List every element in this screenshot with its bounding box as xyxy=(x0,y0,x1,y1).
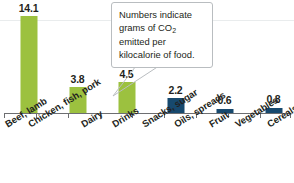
x-axis-tick xyxy=(68,113,69,118)
bar-beef-lamb[interactable] xyxy=(20,16,37,113)
callout-subscript-2: 2 xyxy=(172,27,176,34)
bar-value-beef-lamb: 14.1 xyxy=(19,2,39,14)
callout-line-3: emitted per xyxy=(119,36,166,47)
callout-line-2-prefix: grams of CO xyxy=(119,22,172,33)
bar-group-beef-lamb[interactable]: 14.1 xyxy=(4,0,53,114)
callout-text: Numbers indicate grams of CO2 emitted pe… xyxy=(119,8,206,61)
units-callout: Numbers indicate grams of CO2 emitted pe… xyxy=(111,2,213,68)
callout-line-4: kilocalorie of food. xyxy=(119,49,195,60)
co2-per-kilocalorie-bar-chart: 14.1 3.8 4.5 2.2 0.6 0.8 4.6 2.8 xyxy=(0,0,294,183)
callout-line-1: Numbers indicate xyxy=(119,9,192,20)
